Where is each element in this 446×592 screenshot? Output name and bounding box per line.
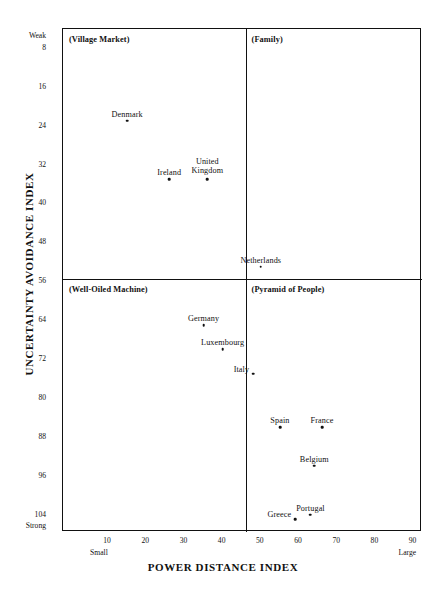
x-axis-ticks: 102030405060708090SmallLarge bbox=[0, 0, 446, 592]
x-axis-low-caption: Small bbox=[90, 548, 108, 557]
x-axis-tick-label: 90 bbox=[409, 536, 417, 545]
x-axis-tick-label: 80 bbox=[371, 536, 379, 545]
x-axis-high-caption: Large bbox=[399, 548, 417, 557]
scatter-plot-figure: (Village Market)(Family)(Well-Oiled Mach… bbox=[0, 0, 446, 592]
x-axis-tick-label: 40 bbox=[218, 536, 226, 545]
x-axis-tick-label: 30 bbox=[180, 536, 188, 545]
x-axis-tick-label: 10 bbox=[103, 536, 111, 545]
x-axis-tick-label: 20 bbox=[141, 536, 149, 545]
x-axis-tick-label: 50 bbox=[256, 536, 264, 545]
x-axis-title: POWER DISTANCE INDEX bbox=[0, 561, 446, 573]
x-axis-tick-label: 70 bbox=[332, 536, 340, 545]
x-axis-tick-label: 60 bbox=[294, 536, 302, 545]
